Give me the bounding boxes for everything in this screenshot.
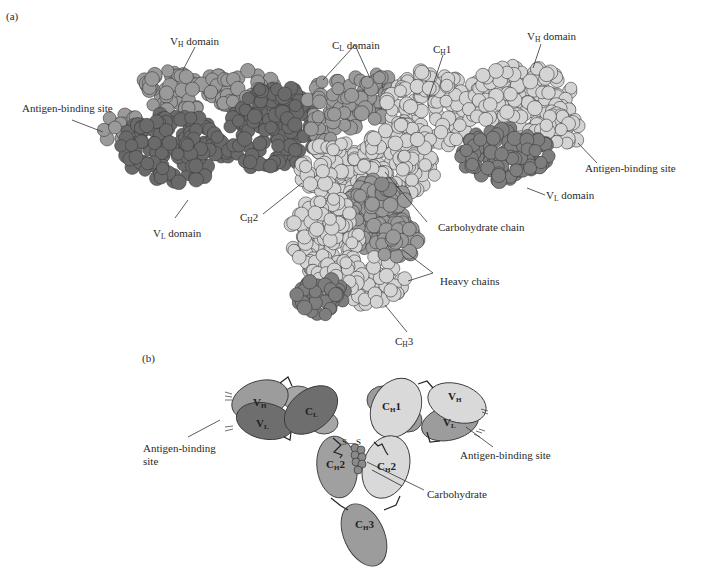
panel-b-schematic: VH VL CL CH1 VH VL CH2 CH2 CH3 S—S — [0, 0, 709, 573]
label-antigen-binding-site-right-b: Antigen-binding site — [460, 450, 551, 461]
svg-text:S—S: S—S — [342, 437, 361, 447]
label-antigen-binding-site-left-b-line2: site — [143, 456, 158, 467]
label-antigen-binding-site-left-b: Antigen-binding — [143, 443, 216, 454]
label-carbohydrate: Carbohydrate — [427, 489, 487, 500]
